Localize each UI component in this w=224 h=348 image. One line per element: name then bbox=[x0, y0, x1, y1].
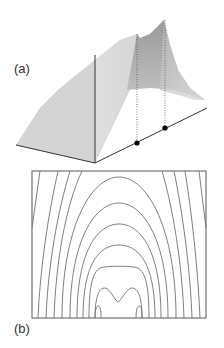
panel-b-label: (b) bbox=[14, 321, 30, 336]
contour-dome-6 bbox=[95, 288, 142, 318]
contour-edge-left-1 bbox=[32, 171, 40, 228]
marked-point-1 bbox=[134, 140, 139, 145]
contour-frame bbox=[32, 171, 206, 318]
contour-dome-4 bbox=[83, 245, 155, 318]
panel-a-label: (a) bbox=[14, 61, 30, 76]
contour-open-3r bbox=[162, 171, 184, 318]
contour-loop-right bbox=[136, 306, 142, 318]
contour-loop-left bbox=[95, 306, 101, 318]
contour-open-1r bbox=[185, 171, 200, 318]
panel-b-contour-plot bbox=[32, 171, 206, 318]
panel-a-surface-plot bbox=[16, 20, 207, 163]
contour-edge-right-1 bbox=[199, 171, 206, 228]
figure: (a) (b) bbox=[0, 0, 224, 348]
contour-dome-5 bbox=[89, 266, 149, 318]
marked-point-2 bbox=[162, 125, 167, 130]
figure-svg bbox=[0, 0, 224, 348]
surface-right-slope bbox=[160, 20, 205, 100]
contour-open-2 bbox=[46, 171, 70, 318]
